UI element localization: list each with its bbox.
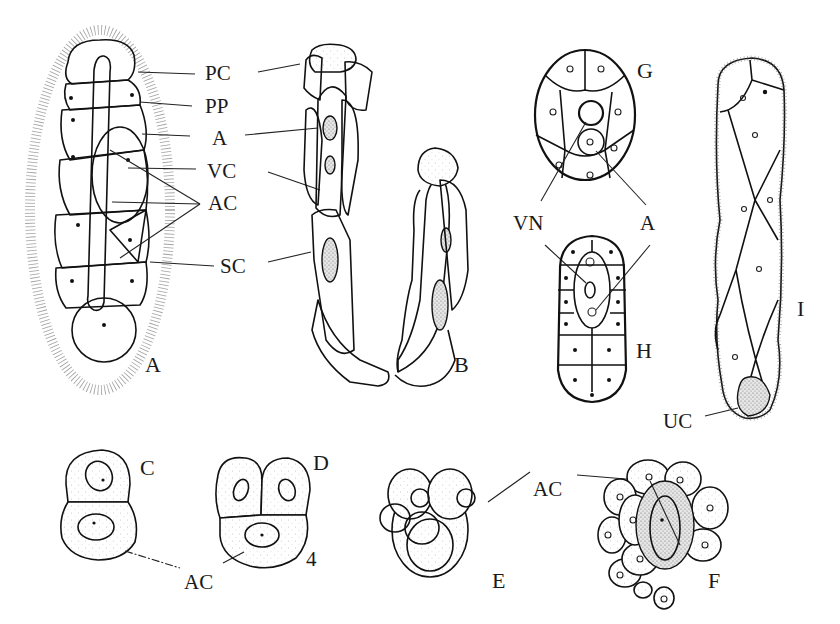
panel-label-e: E: [492, 568, 505, 593]
label-uc: UC: [663, 409, 692, 433]
panel-label-d: D: [313, 450, 329, 475]
panel-i: I UC: [663, 58, 804, 433]
panel-label-b: B: [454, 352, 469, 377]
label-vn: VN: [513, 211, 543, 235]
label-a-center: A: [212, 126, 228, 150]
panel-label-g: G: [637, 58, 653, 83]
panel-d: D 4: [216, 450, 329, 571]
label-pc: PC: [205, 61, 231, 85]
label-vc: VC: [207, 159, 236, 183]
panel-label-c: C: [140, 455, 155, 480]
panel-label-h: H: [636, 338, 652, 363]
panel-h: H: [558, 236, 652, 402]
panel-b: B: [304, 44, 469, 386]
panel-label-f: F: [708, 568, 720, 593]
cd-annotations: AC: [125, 551, 244, 594]
panel-label-i: I: [797, 296, 804, 321]
panel-f: F: [598, 460, 728, 609]
panel-e: E: [380, 469, 505, 593]
panel-g: G: [535, 50, 653, 180]
label-a-gh: A: [640, 211, 656, 235]
label-sc: SC: [220, 254, 246, 278]
panel-c: C: [61, 450, 155, 560]
panel-label-a: A: [145, 352, 161, 377]
gh-annotations: VN A: [513, 122, 656, 310]
label-ac-ef: AC: [533, 477, 562, 501]
panel-a: A: [30, 30, 170, 390]
center-annotations: PC PP A VC AC SC: [110, 61, 320, 278]
cell-count-label: 4: [306, 547, 317, 571]
embryo-stages-figure: A PC PP A VC AC SC: [0, 0, 840, 624]
label-ac-center: AC: [208, 191, 237, 215]
label-pp: PP: [205, 94, 228, 118]
label-ac-cd: AC: [184, 570, 213, 594]
